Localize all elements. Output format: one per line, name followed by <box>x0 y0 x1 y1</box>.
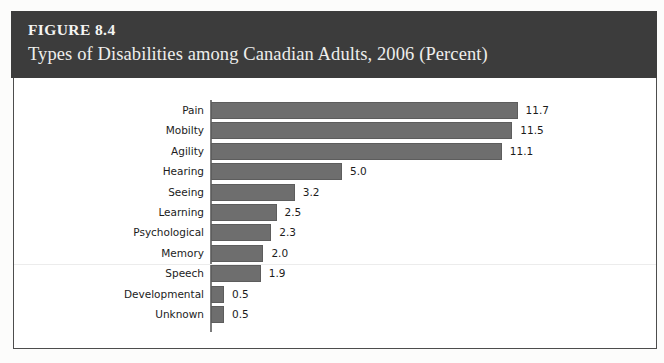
bar-value-label: 3.2 <box>303 185 320 200</box>
bar-row: Seeing3.2 <box>14 183 658 203</box>
bar <box>211 102 518 119</box>
bar-chart: Pain11.7Mobilty11.5Agility11.1Hearing5.0… <box>14 78 658 349</box>
bar-category-label: Hearing <box>14 164 204 179</box>
bar-value-label: 11.5 <box>520 123 543 138</box>
bar-category-label: Pain <box>14 103 204 118</box>
bar-value-label: 0.5 <box>232 287 249 302</box>
bar <box>211 122 512 139</box>
bar-row: Agility11.1 <box>14 142 658 162</box>
bar-value-label: 2.5 <box>285 205 302 220</box>
bar <box>211 306 224 323</box>
figure-container: FIGURE 8.4 Types of Disabilities among C… <box>0 0 664 363</box>
bar-category-label: Memory <box>14 246 204 261</box>
bar-row: Mobilty11.5 <box>14 121 658 141</box>
bar-category-label: Speech <box>14 266 204 281</box>
figure-number: FIGURE 8.4 <box>28 20 657 39</box>
figure-title: Types of Disabilities among Canadian Adu… <box>28 41 657 67</box>
bar <box>211 224 271 241</box>
bar-category-label: Developmental <box>14 287 204 302</box>
bar <box>211 245 263 262</box>
bar <box>211 204 277 221</box>
bar-row: Unknown0.5 <box>14 305 658 325</box>
bar-value-label: 1.9 <box>269 266 286 281</box>
bar-value-label: 2.3 <box>279 225 296 240</box>
bar-value-label: 11.7 <box>526 103 549 118</box>
bar-row: Hearing5.0 <box>14 162 658 182</box>
bar <box>211 143 502 160</box>
bar-category-label: Agility <box>14 144 204 159</box>
bar-value-label: 5.0 <box>350 164 367 179</box>
bar-row: Speech1.9 <box>14 264 658 284</box>
bar-value-label: 2.0 <box>271 246 288 261</box>
bar <box>211 265 261 282</box>
bar <box>211 286 224 303</box>
bar <box>211 184 295 201</box>
bar-category-label: Mobilty <box>14 123 204 138</box>
bar-category-label: Seeing <box>14 185 204 200</box>
bar <box>211 163 342 180</box>
bar-row: Pain11.7 <box>14 101 658 121</box>
chart-frame: Pain11.7Mobilty11.5Agility11.1Hearing5.0… <box>13 78 657 349</box>
figure-header-band: FIGURE 8.4 Types of Disabilities among C… <box>11 11 657 78</box>
bar-category-label: Psychological <box>14 225 204 240</box>
bar-row: Psychological2.3 <box>14 223 658 243</box>
bar-row: Developmental0.5 <box>14 285 658 305</box>
bar-row: Learning2.5 <box>14 203 658 223</box>
bar-value-label: 0.5 <box>232 307 249 322</box>
bar-value-label: 11.1 <box>510 144 533 159</box>
bar-row: Memory2.0 <box>14 244 658 264</box>
bar-category-label: Unknown <box>14 307 204 322</box>
bar-category-label: Learning <box>14 205 204 220</box>
